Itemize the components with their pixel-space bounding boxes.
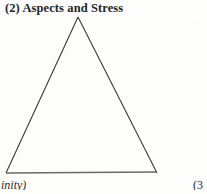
triangle-left-edge bbox=[6, 17, 78, 173]
triangle-right-edge bbox=[78, 17, 157, 173]
caption-bottom-left: inity) bbox=[1, 179, 26, 190]
triangle-svg bbox=[0, 0, 207, 194]
triangle-base-edge bbox=[6, 172, 157, 173]
caption-bottom-right: (3 bbox=[193, 179, 203, 190]
page-title: (2) Aspects and Stress bbox=[5, 1, 123, 16]
scanned-page: (2) Aspects and Stress inity) (3 bbox=[0, 0, 207, 194]
triangle-figure bbox=[0, 0, 207, 194]
